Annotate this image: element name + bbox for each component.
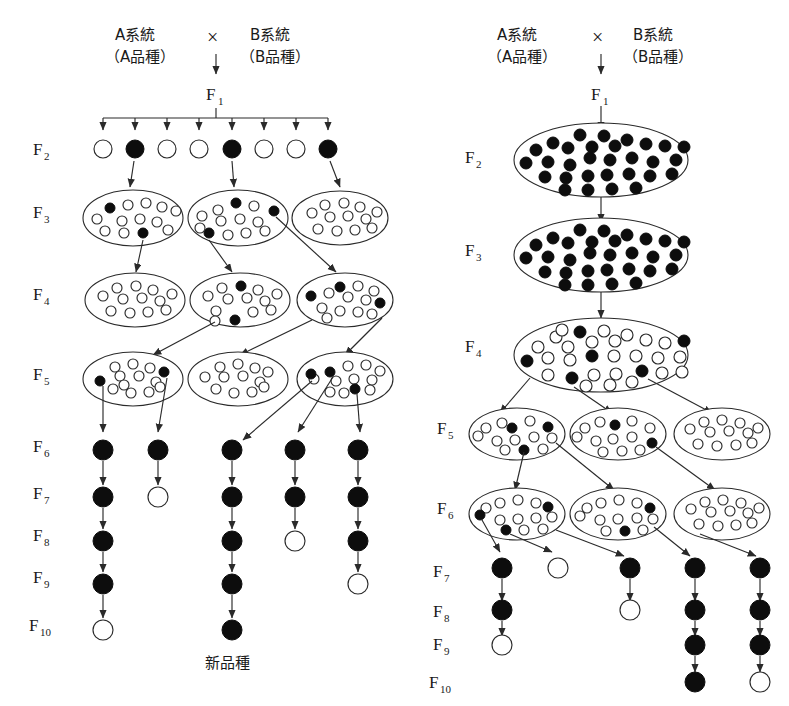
right-gen-label-f9: F9 [433,635,450,657]
svg-text:5: 5 [44,375,50,387]
lineage-R1 [492,558,512,655]
svg-text:F: F [429,673,438,692]
right-lineage-chains [492,558,770,692]
diagram-canvas: A系統 （A品種） × B系統 （B品種） F 1 F2 F3 F4 F5 F6… [0,0,789,706]
f5-population [469,408,565,460]
right-parent-b-line: B系統 [633,26,673,44]
left-gen-label-f3: F3 [33,203,50,225]
svg-text:F: F [433,602,442,621]
left-cross-symbol: × [207,26,218,48]
svg-text:F: F [33,437,42,456]
left-gen-label-f7: F7 [33,484,50,506]
right-gen-label-f4: F4 [465,337,482,359]
left-gen-label-f10: F10 [29,616,52,638]
svg-text:F: F [437,419,446,438]
f6-population [469,488,565,540]
left-f2-row [94,140,337,158]
left-f3-row [83,190,388,246]
left-f1-sub: 1 [218,95,224,107]
right-f1-sub: 1 [603,95,609,107]
left-parent-b-variety: （B品種） [240,48,310,66]
f2-plant [223,140,241,158]
left-f2-to-f3-arrows [130,161,340,187]
right-f2-bulk [514,123,690,222]
left-gen-label-f5: F5 [33,365,50,387]
svg-text:5: 5 [448,429,454,441]
lineage-R5 [750,558,770,692]
svg-text:F: F [33,484,42,503]
svg-text:F: F [33,568,42,587]
f2-plant [158,140,176,158]
svg-text:F: F [33,365,42,384]
svg-text:3: 3 [476,251,482,263]
right-f5-row [469,408,770,490]
right-parent-a-line: A系統 [497,26,537,44]
svg-text:F: F [465,241,474,260]
lineage-L2 [148,440,168,507]
f2-plant [94,140,112,158]
right-gen-label-f10: F10 [429,673,452,695]
f3-population [83,190,183,246]
svg-text:8: 8 [44,536,50,548]
lineage-L5 [348,440,368,594]
f4-population [190,273,290,327]
left-f1-label: F [206,85,215,104]
f4-to-f5-arrow [648,379,712,413]
left-parent-a-variety: （A品種） [105,48,175,66]
svg-text:7: 7 [44,494,50,506]
right-gen-label-f7: F7 [433,562,450,584]
lineage-R4 [685,558,705,692]
svg-text:3: 3 [44,213,50,225]
right-gen-label-f6: F6 [437,499,454,521]
svg-text:F: F [33,526,42,545]
left-generation-labels: F2 F3 F4 F5 F6 F7 F8 F9 F10 [29,140,52,638]
right-gen-label-f8: F8 [433,602,450,624]
svg-text:F: F [33,203,42,222]
f3-population [188,190,288,246]
f6-population [674,488,770,540]
left-lineage-chains [93,440,368,640]
left-gen-label-f4: F4 [33,285,50,307]
svg-text:2: 2 [44,150,50,162]
left-f4-row [85,273,393,327]
svg-text:4: 4 [44,295,50,307]
svg-text:10: 10 [40,626,52,638]
svg-text:F: F [33,285,42,304]
left-gen-label-f9: F9 [33,568,50,590]
right-f3-bulk [514,218,690,318]
svg-text:F: F [33,140,42,159]
f6-population [570,488,666,540]
svg-text:10: 10 [440,683,452,695]
left-panel-header: A系統 （A品種） × B系統 （B品種） F 1 [105,26,310,107]
f2-plant [190,140,208,158]
right-f4-bulk [500,318,712,413]
svg-text:F: F [465,337,474,356]
f2-plant [126,140,144,158]
left-parent-a-line: A系統 [115,26,155,44]
left-gen-label-f6: F6 [33,437,50,459]
f5-population [188,352,288,406]
lineage-L4 [285,440,305,551]
f2-plant [287,140,305,158]
svg-text:9: 9 [444,645,450,657]
f3-population [292,191,388,245]
svg-text:F: F [433,562,442,581]
left-outcome-label: 新品種 [205,654,250,672]
svg-text:F: F [433,635,442,654]
left-gen-label-f2: F2 [33,140,50,162]
svg-text:F: F [437,499,446,518]
lineage-L3 [222,440,242,640]
right-parent-a-variety: （A品種） [487,48,557,66]
left-f1-to-f2-bus [103,108,328,130]
svg-text:7: 7 [444,572,450,584]
right-gen-label-f2: F2 [465,148,482,170]
svg-text:F: F [29,616,38,635]
right-gen-label-f3: F3 [465,241,482,263]
right-cross-symbol: × [592,26,603,48]
f2-plant [255,140,273,158]
f4-population [297,273,393,327]
right-panel-header: A系統 （A品種） × B系統 （B品種） F 1 [487,26,693,130]
right-gen-label-f5: F5 [437,419,454,441]
svg-text:6: 6 [448,509,454,521]
svg-text:6: 6 [44,447,50,459]
